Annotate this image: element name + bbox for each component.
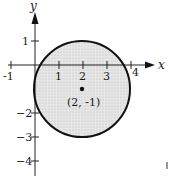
y-tick-label: −3 bbox=[16, 131, 32, 144]
y-tick-label: −4 bbox=[16, 155, 32, 168]
x-axis-label: x bbox=[158, 58, 165, 72]
x-tick-label: 2 bbox=[79, 70, 86, 83]
y-axis-arrow-icon bbox=[32, 12, 39, 24]
circle-graph: x y -1 1 2 3 4 1 −2 −3 −4 (2, -1) bbox=[0, 0, 170, 180]
x-axis-arrow-icon bbox=[145, 62, 155, 69]
x-tick-label: 3 bbox=[103, 70, 110, 83]
x-tick-label: 1 bbox=[55, 70, 62, 83]
center-point bbox=[80, 87, 84, 91]
y-tick-label: 1 bbox=[22, 35, 29, 48]
x-tick-label: 4 bbox=[132, 66, 139, 79]
x-tick-label: -1 bbox=[3, 70, 14, 83]
center-label: (2, -1) bbox=[67, 96, 100, 109]
y-tick-label: −2 bbox=[16, 107, 32, 120]
y-axis-label: y bbox=[29, 0, 37, 13]
